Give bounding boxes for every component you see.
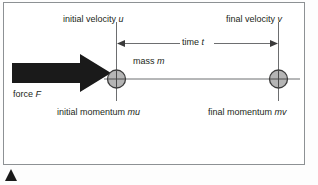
label-initial-velocity-var: u	[119, 14, 124, 24]
label-time-var: t	[202, 37, 205, 47]
label-initial-momentum: initial momentum mu	[57, 107, 140, 118]
page-marker-triangle-icon	[5, 169, 17, 181]
label-time-text: time	[182, 37, 202, 47]
label-force: force F	[13, 89, 41, 100]
label-mass-var: m	[157, 56, 165, 66]
figure-border-frame	[3, 2, 305, 165]
label-force-var: F	[36, 89, 42, 99]
label-initial-momentum-var: mu	[128, 107, 141, 117]
label-force-text: force	[13, 89, 36, 99]
label-final-velocity-var: v	[278, 14, 283, 24]
label-initial-velocity-text: initial velocity	[63, 14, 119, 24]
label-initial-velocity: initial velocity u	[63, 14, 124, 25]
label-mass: mass m	[133, 56, 165, 67]
label-initial-momentum-text: initial momentum	[57, 107, 128, 117]
label-mass-text: mass	[133, 56, 157, 66]
label-time: time t	[180, 37, 206, 48]
label-final-momentum-text: final momentum	[208, 107, 275, 117]
label-final-velocity-text: final velocity	[226, 14, 278, 24]
figure-root: initial velocity u final velocity v time…	[0, 0, 318, 185]
label-final-momentum-var: mv	[275, 107, 287, 117]
label-final-momentum: final momentum mv	[208, 107, 287, 118]
label-final-velocity: final velocity v	[226, 14, 282, 25]
